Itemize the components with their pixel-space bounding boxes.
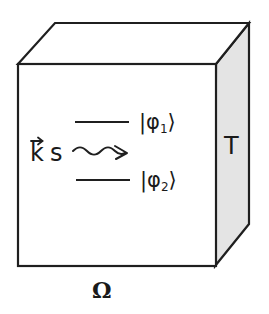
upper-level-ket: |φ1⟩ bbox=[139, 112, 176, 135]
ket-close: ⟩ bbox=[169, 168, 177, 192]
wavevector-symbol: k bbox=[30, 139, 44, 167]
box-front-face bbox=[18, 64, 216, 266]
ket-open: |φ bbox=[140, 168, 161, 192]
ket-index: 1 bbox=[160, 122, 168, 136]
ket-index: 2 bbox=[161, 180, 169, 194]
ket-open: |φ bbox=[139, 110, 160, 134]
wavevector-suffix: s bbox=[50, 139, 63, 167]
ket-close: ⟩ bbox=[168, 110, 176, 134]
wavevector-label: ks bbox=[30, 141, 62, 165]
volume-label: Ω bbox=[92, 279, 112, 301]
lower-level-ket: |φ2⟩ bbox=[140, 170, 177, 193]
diagram-canvas: ks |φ1⟩ |φ2⟩ T Ω bbox=[0, 0, 269, 314]
box-top-face bbox=[18, 23, 249, 64]
side-face-label: T bbox=[224, 134, 239, 158]
